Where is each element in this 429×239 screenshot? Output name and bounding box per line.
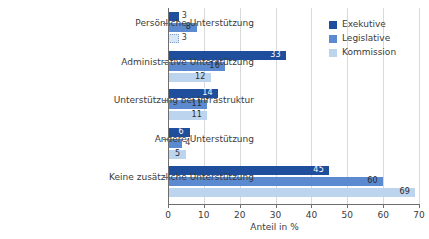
x-axis-tick-label: 20 — [234, 209, 245, 221]
bar-value-label: 11 — [191, 109, 202, 121]
x-axis-tick-label: 50 — [342, 209, 353, 221]
x-axis-tick — [204, 204, 205, 208]
bar-value-label: 69 — [399, 186, 410, 198]
category-label: Unterstützung bei Infrastruktur — [114, 95, 254, 106]
category-label: Keine zusätzliche Unterstützung — [109, 172, 254, 183]
x-axis-tick — [276, 204, 277, 208]
x-axis-tick — [419, 204, 420, 208]
bar-row: 11 — [168, 111, 419, 120]
x-axis-tick-label: 70 — [413, 209, 424, 221]
x-axis-tick — [240, 204, 241, 208]
x-axis-tick — [383, 204, 384, 208]
x-axis-tick — [168, 204, 169, 208]
x-axis-tick — [347, 204, 348, 208]
bar-row: 5 — [168, 150, 419, 159]
x-axis-tick-label: 10 — [198, 209, 209, 221]
category-label: Andere Unterstützung — [155, 134, 254, 145]
x-axis-tick-label: 40 — [306, 209, 317, 221]
x-axis-tick — [311, 204, 312, 208]
category-label: Persönliche Unterstützung — [135, 18, 254, 29]
y-axis-line — [168, 8, 169, 204]
legend-item[interactable]: Legislative — [329, 32, 396, 45]
bar-value-label: 5 — [175, 148, 180, 160]
bar-value-label: 12 — [195, 71, 206, 83]
bar[interactable] — [168, 34, 179, 43]
legend-label: Exekutive — [342, 19, 386, 30]
bar-row: 12 — [168, 73, 419, 82]
legend: ExekutiveLegislativeKommission — [329, 18, 396, 60]
bar-chart: 383331612141111645456069 Persönliche Unt… — [0, 0, 429, 239]
x-axis-title: Anteil in % — [0, 222, 429, 232]
legend-item[interactable]: Exekutive — [329, 18, 396, 31]
bar-value-label: 45 — [313, 164, 324, 176]
bar-row: 69 — [168, 188, 419, 197]
legend-item[interactable]: Kommission — [329, 46, 396, 59]
legend-label: Kommission — [342, 47, 396, 58]
bar-value-label: 33 — [270, 49, 281, 61]
x-axis-tick-label: 0 — [165, 209, 171, 221]
x-axis-title-text: Anteil in % — [130, 222, 298, 232]
category-label: Administrative Unterstützung — [121, 57, 254, 68]
bar[interactable] — [168, 188, 415, 197]
bar-value-label: 3 — [182, 32, 187, 44]
x-axis-tick-label: 60 — [377, 209, 388, 221]
legend-swatch-icon — [329, 49, 337, 57]
bar-value-label: 60 — [367, 175, 378, 187]
legend-swatch-icon — [329, 21, 337, 29]
legend-swatch-icon — [329, 35, 337, 43]
x-axis-tick-label: 30 — [270, 209, 281, 221]
grid-line — [419, 8, 420, 204]
legend-label: Legislative — [342, 33, 390, 44]
